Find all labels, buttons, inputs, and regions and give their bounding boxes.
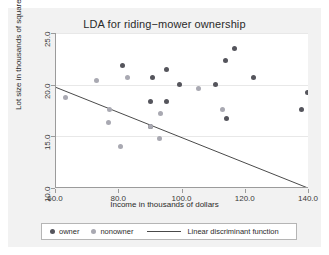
- data-point-owner: [120, 63, 125, 68]
- data-point-nonowner: [94, 78, 99, 83]
- line-swatch-icon: [147, 231, 181, 232]
- y-tick-label: 25.0: [43, 32, 52, 79]
- data-point-owner: [177, 82, 182, 87]
- data-point-owner: [150, 75, 155, 80]
- legend-item-line: Linear discriminant function: [133, 227, 278, 236]
- plot-area: [56, 33, 308, 187]
- y-tick-label: 15.0: [43, 135, 52, 182]
- x-tick-mark: [182, 189, 183, 193]
- data-point-nonowner: [125, 75, 130, 80]
- x-tick-mark: [55, 189, 56, 193]
- y-tick-label: 20.0: [43, 83, 52, 130]
- discriminant-line: [56, 33, 308, 187]
- data-point-nonowner: [63, 95, 68, 100]
- legend-label-line: Linear discriminant function: [187, 227, 278, 236]
- x-tick-mark: [308, 189, 309, 193]
- plot-frame: [55, 33, 308, 188]
- chart-legend: owner nonowner Linear discriminant funct…: [41, 223, 297, 240]
- x-tick-mark: [245, 189, 246, 193]
- chart-title: LDA for riding−mower ownership: [0, 18, 329, 30]
- nonowner-marker-icon: [91, 229, 96, 234]
- y-axis-label: Lot size in thousands of square feet: [14, 0, 23, 110]
- legend-item-nonowner: nonowner: [79, 227, 133, 236]
- data-point-nonowner: [158, 111, 163, 116]
- data-point-owner: [299, 107, 304, 112]
- data-point-nonowner: [148, 124, 153, 129]
- owner-marker-icon: [50, 229, 55, 234]
- chart-figure: LDA for riding−mower ownership Lot size …: [0, 0, 329, 255]
- legend-item-owner: owner: [42, 227, 79, 236]
- legend-label-nonowner: nonowner: [100, 227, 133, 236]
- data-point-owner: [164, 99, 169, 104]
- x-axis-label: Income in thousands of dollars: [0, 200, 329, 209]
- x-tick-mark: [118, 189, 119, 193]
- data-point-owner: [148, 99, 153, 104]
- data-point-owner: [305, 90, 308, 95]
- legend-label-owner: owner: [59, 227, 79, 236]
- data-point-owner: [164, 67, 169, 72]
